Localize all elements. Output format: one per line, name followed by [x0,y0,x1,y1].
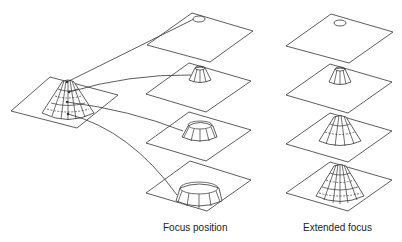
extended-focus-column [286,14,393,211]
extended-slice-2 [286,64,392,113]
specimen-group [11,77,118,128]
focus-slice-3 [146,112,251,161]
extended-focus-caption: Extended focus [303,222,372,233]
extended-slice-1 [286,14,393,63]
focus-slice-4 [146,161,251,211]
connector-line-2 [69,75,191,92]
focus-position-column [146,13,253,211]
focus-diagram [0,0,402,242]
connector-line-4 [68,114,177,195]
extended-slice-4 [286,162,392,211]
focus-slice-1 [147,13,253,62]
focus-slice-2 [146,63,251,112]
extended-slice-3 [286,113,392,162]
focus-position-caption: Focus position [163,222,227,233]
connector-line-1 [67,19,194,82]
